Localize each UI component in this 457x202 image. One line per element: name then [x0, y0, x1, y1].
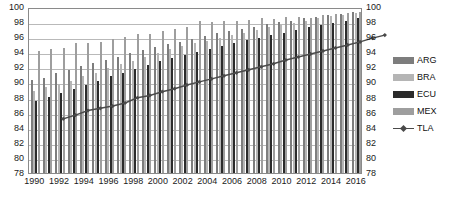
legend-item-bra[interactable]: BRA	[393, 69, 455, 86]
bar-mex	[186, 27, 188, 173]
y-tick-label-right: 92	[366, 63, 390, 72]
bar-group	[165, 9, 177, 173]
bar-mex	[211, 22, 213, 173]
legend-swatch-icon	[393, 74, 414, 81]
legend-swatch-icon	[393, 91, 414, 98]
plot-area	[28, 8, 362, 174]
y-tick-label-left: 96	[0, 33, 24, 42]
bar-mex	[137, 34, 139, 173]
y-tick-label-left: 80	[0, 154, 24, 163]
y-tick-label-right: 80	[366, 154, 390, 163]
bar-group	[264, 9, 276, 173]
bar-group	[215, 9, 227, 173]
bar-group	[103, 9, 115, 173]
y-tick-label-left: 88	[0, 94, 24, 103]
bar-group	[128, 9, 140, 173]
bar-group	[54, 9, 66, 173]
bar-mex	[359, 12, 361, 173]
chart-legend: ARGBRAECUMEXTLA	[393, 52, 455, 137]
legend-item-mex[interactable]: MEX	[393, 103, 455, 120]
legend-swatch-icon	[393, 108, 414, 115]
bar-mex	[261, 18, 263, 173]
legend-label: ECU	[417, 90, 436, 99]
bar-group	[190, 9, 202, 173]
bar-group	[227, 9, 239, 173]
legend-label: MEX	[417, 107, 437, 116]
chart-container: 7880828486889092949698100 78808284868890…	[0, 0, 457, 202]
bar-mex	[335, 14, 337, 173]
bar-mex	[298, 17, 300, 173]
bar-group	[91, 9, 103, 173]
bar-group	[41, 9, 53, 173]
legend-label: TLA	[417, 124, 434, 133]
bar-mex	[162, 31, 164, 173]
x-axis: 1990199219941996199820002002200420062008…	[28, 177, 362, 189]
bar-mex	[38, 51, 40, 173]
bar-mex	[273, 19, 275, 173]
bar-mex	[223, 21, 225, 173]
bar-group	[116, 9, 128, 173]
legend-label: ARG	[417, 56, 437, 65]
bar-mex	[347, 13, 349, 173]
bar-group	[177, 9, 189, 173]
bar-group	[301, 9, 313, 173]
bar-group	[338, 9, 350, 173]
bar-group	[276, 9, 288, 173]
bar-group	[66, 9, 78, 173]
legend-item-arg[interactable]: ARG	[393, 52, 455, 69]
bar-group	[314, 9, 326, 173]
bar-mex	[75, 43, 77, 173]
bar-mex	[236, 21, 238, 173]
y-tick-label-left: 84	[0, 124, 24, 133]
y-tick-label-right: 90	[366, 78, 390, 87]
legend-label: BRA	[417, 73, 436, 82]
bar-mex	[100, 42, 102, 173]
y-tick-label-right: 94	[366, 48, 390, 57]
bar-mex	[199, 21, 201, 173]
bar-group	[140, 9, 152, 173]
bar-group	[78, 9, 90, 173]
y-tick-label-left: 100	[0, 3, 24, 12]
y-tick-label-right: 86	[366, 109, 390, 118]
bar-group	[239, 9, 251, 173]
bar-mex	[63, 48, 65, 173]
y-tick-label-left: 98	[0, 18, 24, 27]
legend-item-tla[interactable]: TLA	[393, 120, 455, 137]
bar-group	[153, 9, 165, 173]
bar-mex	[310, 18, 312, 173]
bar-mex	[174, 29, 176, 173]
bar-group	[202, 9, 214, 173]
bar-mex	[248, 20, 250, 173]
bar-mex	[50, 49, 52, 174]
y-tick-label-left: 86	[0, 109, 24, 118]
y-tick-label-right: 84	[366, 124, 390, 133]
legend-swatch-icon	[393, 57, 414, 64]
bar-mex	[285, 17, 287, 173]
y-tick-label-right: 98	[366, 18, 390, 27]
y-tick-label-left: 94	[0, 48, 24, 57]
x-tick-label: 2016	[339, 177, 373, 186]
bar-group	[29, 9, 41, 173]
bar-group	[351, 9, 363, 173]
legend-item-ecu[interactable]: ECU	[393, 86, 455, 103]
bar-mex	[322, 15, 324, 173]
bar-mex	[87, 43, 89, 173]
y-tick-label-left: 82	[0, 139, 24, 148]
bar-group	[326, 9, 338, 173]
bar-mex	[112, 39, 114, 173]
bar-group	[252, 9, 264, 173]
y-tick-label-right: 96	[366, 33, 390, 42]
bar-group	[289, 9, 301, 173]
y-tick-label-left: 90	[0, 78, 24, 87]
y-tick-label-right: 82	[366, 139, 390, 148]
bar-mex	[149, 34, 151, 173]
y-tick-label-right: 88	[366, 94, 390, 103]
legend-line-marker-icon	[393, 125, 414, 132]
y-tick-label-right: 100	[366, 3, 390, 12]
y-tick-label-left: 92	[0, 63, 24, 72]
bar-mex	[124, 37, 126, 173]
